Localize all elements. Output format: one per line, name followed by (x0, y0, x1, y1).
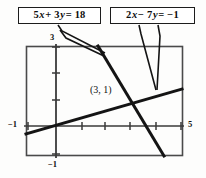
equation-callout-2: 2x − 7y = −1 (110, 7, 195, 24)
equation-callout-1: 5x + 3y = 18 (18, 7, 101, 24)
intersection-point-label: (3, 1) (90, 85, 112, 95)
line-2x-7y-neg1 (26, 89, 182, 134)
y-axis-bottom-label: −1 (48, 160, 57, 169)
graph-figure: 5x + 3y = 18 2x − 7y = −1 3 −1 5 −1 (3, … (0, 0, 206, 178)
y-axis-top-label: 3 (50, 33, 54, 42)
x-axis-right-label: 5 (188, 120, 192, 129)
x-axis-left-label: −1 (8, 120, 17, 129)
leader-line-equation-2-left (139, 25, 156, 90)
line-5x-3y-18 (98, 46, 164, 156)
leader-line-equation-2-right (157, 25, 160, 90)
leader-line-equation-1 (58, 25, 105, 53)
